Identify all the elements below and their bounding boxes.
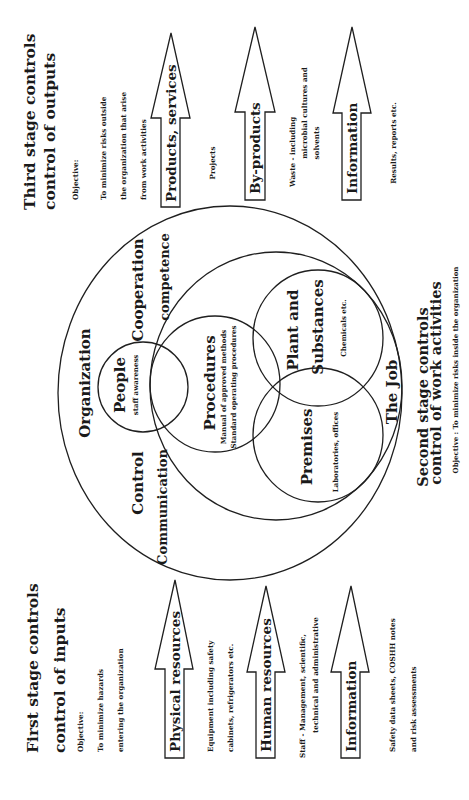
second-stage-subtitle: control of work activities [427,281,444,484]
organization-label: Organization [76,328,94,438]
human-resources-note-line1: Staff - Management, scientific, [298,634,307,758]
first-stage-section: First stage controls control of inputs O… [23,580,418,758]
third-stage-subtitle: control of outputs [40,53,59,210]
plant-label-line2: Substances [309,279,327,374]
competence-label: competence [157,233,172,321]
third-stage-title: Third stage controls [20,33,39,210]
information-input-note-line1: Safety data sheets, COSHH notes [388,618,397,752]
first-stage-subtitle: control of inputs [50,607,69,753]
third-stage-section: Third stage controls control of outputs … [20,27,398,210]
first-stage-title: First stage controls [23,583,42,753]
first-stage-objective-label: Objective: [76,712,85,752]
control-label: Control [129,451,147,515]
second-stage-objective: Objective : To minimize risks inside the… [451,267,460,474]
information-output-label: Information [344,103,360,194]
information-input-label: Information [343,661,359,752]
physical-resources-label: Physical resources [167,611,183,752]
procedures-note-sop: Standard operating procedures [229,325,238,448]
first-stage-objective-line2: entering the organization [116,648,125,752]
products-services-note: Projects [208,147,217,180]
third-stage-objective-line1: To minimize risks outside [99,96,108,200]
by-products-note-line2: microbial cultures and [300,67,309,159]
human-resources-label: Human resources [258,618,274,752]
second-stage-caption: Second stage controls control of work ac… [414,267,460,487]
human-resources-note-line2: technical and administrative [311,617,320,733]
third-stage-objective-line2: the organization that arise [119,92,128,200]
laboratories-offices-note: Laboratories, offices [331,412,340,493]
circle-labels: Organization Control Communication Coope… [76,233,401,565]
physical-resources-note-line2: cabinets, refrigerators etc. [226,644,235,752]
third-stage-objective-label: Objective: [71,160,80,200]
procedures-note-manual: Manual of approved methods [219,330,228,444]
premises-label: Premises [298,409,316,486]
cooperation-label: Cooperation [129,238,147,341]
information-output-note: Results, reports etc. [389,102,398,184]
first-stage-objective-line1: To minimize hazards [96,669,105,752]
people-label: People [111,357,129,413]
information-input-note-line2: and risk assessments [409,666,418,752]
health-safety-control-diagram: Organization Control Communication Coope… [0,0,469,800]
by-products-note-line1: Waste - including [288,117,297,188]
procedures-label: Procedures [201,335,219,430]
communication-label: Communication [155,449,170,565]
third-stage-objective-line3: from work activities [139,119,148,200]
by-products-label: By-products [247,102,263,194]
staff-awareness-note: staff awareness [131,355,140,416]
chemicals-note: Chemicals etc. [339,299,348,356]
products-services-label: Products, services [163,64,179,202]
the-job-label: The Job [383,360,401,424]
plant-label-line1: Plant and [284,289,302,370]
physical-resources-note-line1: Equipment including safety [206,640,215,752]
by-products-note-line3: solvents [312,127,321,160]
